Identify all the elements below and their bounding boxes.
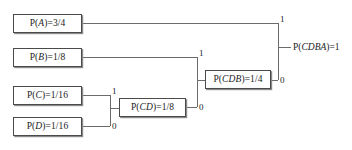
node-label-cdb: P(CDB)=1/4 <box>213 75 262 85</box>
node-box-cd[interactable]: P(CD)=1/8 <box>119 98 186 117</box>
node-label-a: P(A)=3/4 <box>30 19 66 29</box>
edge-label-root-one: 1 <box>280 15 285 24</box>
edge-label-cdb-zero: 0 <box>199 103 204 112</box>
probability-tree-diagram: P(A)=3/4 P(B)=1/8 P(C)=1/16 P(D)=1/16 P(… <box>0 0 352 150</box>
edge-label-cd-one: 1 <box>112 87 117 96</box>
node-label-cd: P(CD)=1/8 <box>131 103 174 113</box>
node-box-b[interactable]: P(B)=1/8 <box>13 48 82 67</box>
node-box-cdb[interactable]: P(CDB)=1/4 <box>205 70 271 89</box>
edge-label-cdb-one: 1 <box>199 49 204 58</box>
node-label-b: P(B)=1/8 <box>30 53 66 63</box>
node-label-d: P(D)=1/16 <box>27 122 69 132</box>
node-box-d[interactable]: P(D)=1/16 <box>13 117 82 136</box>
node-box-a[interactable]: P(A)=3/4 <box>13 14 82 33</box>
edge-label-cd-zero: 0 <box>112 122 117 131</box>
node-box-c[interactable]: P(C)=1/16 <box>13 86 82 105</box>
node-label-c: P(C)=1/16 <box>27 91 68 101</box>
edge-label-root-zero: 0 <box>280 76 285 85</box>
root-label-cdba: P(CDBA)=1 <box>293 43 340 53</box>
